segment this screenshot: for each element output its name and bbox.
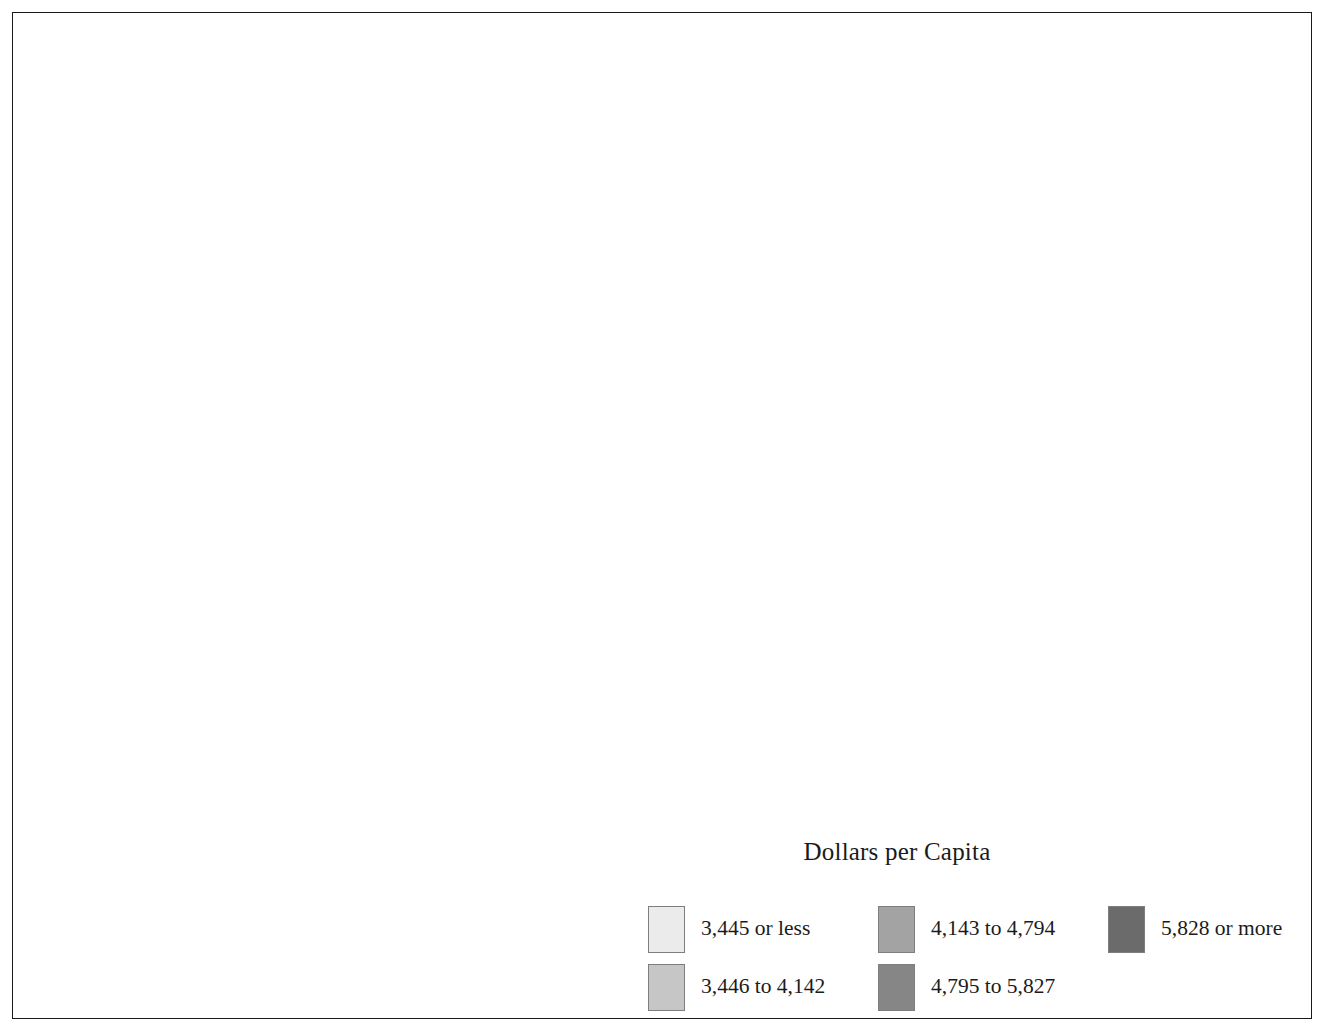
- legend-grid: 3,445 or less 4,143 to 4,794 5,828 or mo…: [648, 900, 1288, 1016]
- map-legend: Dollars per Capita 3,445 or less 4,143 t…: [648, 838, 1288, 1013]
- legend-label-class-5: 5,828 or more: [1161, 918, 1282, 940]
- legend-swatch-class-5: [1108, 906, 1145, 953]
- choropleth-figure: .c1{fill:#ebebeb}.c2{fill:#c6c6c6}.c3{fi…: [0, 0, 1328, 1031]
- legend-item-class-2: 3,446 to 4,142: [648, 964, 878, 1011]
- legend-swatch-class-1: [648, 906, 685, 953]
- legend-item-class-3: 4,143 to 4,794: [878, 906, 1108, 953]
- legend-swatch-class-4: [878, 964, 915, 1011]
- legend-label-class-4: 4,795 to 5,827: [931, 976, 1055, 998]
- legend-item-class-5: 5,828 or more: [1108, 906, 1328, 953]
- legend-item-class-4: 4,795 to 5,827: [878, 964, 1108, 1011]
- legend-label-class-2: 3,446 to 4,142: [701, 976, 825, 998]
- legend-label-class-1: 3,445 or less: [701, 918, 810, 940]
- legend-label-class-3: 4,143 to 4,794: [931, 918, 1055, 940]
- legend-swatch-class-2: [648, 964, 685, 1011]
- legend-swatch-class-3: [878, 906, 915, 953]
- legend-item-class-1: 3,445 or less: [648, 906, 878, 953]
- legend-title: Dollars per Capita: [648, 838, 1146, 866]
